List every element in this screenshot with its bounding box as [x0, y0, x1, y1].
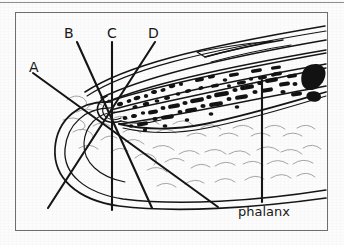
label-phalanx: phalanx — [238, 205, 290, 218]
nail-plate — [85, 26, 326, 102]
figure-page: A B C D phalanx — [0, 0, 344, 245]
leader-lines — [33, 42, 262, 210]
label-d: D — [148, 26, 159, 40]
top-horizontal-rule — [0, 2, 344, 3]
label-b: B — [64, 26, 74, 40]
label-c: C — [107, 26, 117, 40]
label-a: A — [29, 60, 39, 74]
anatomy-illustration — [15, 12, 328, 231]
bone-speckle-marks — [116, 64, 325, 132]
